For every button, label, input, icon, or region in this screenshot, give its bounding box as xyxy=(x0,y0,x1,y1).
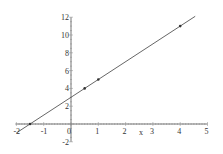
x-tick-label: 1 xyxy=(95,127,99,136)
axis-ticks xyxy=(16,17,207,142)
x-tick-label: -1 xyxy=(41,127,48,136)
y-tick-label: 4 xyxy=(65,84,69,93)
x-tick-label: 4 xyxy=(177,127,181,136)
x-tick-label: 2 xyxy=(123,127,127,136)
axes xyxy=(15,17,207,142)
y-tick-label: 8 xyxy=(65,49,69,58)
data-point xyxy=(83,87,86,90)
data-point xyxy=(179,25,182,28)
x-tick-label: 5 xyxy=(205,127,209,136)
x-tick-label: -2 xyxy=(13,127,20,136)
data-point xyxy=(97,78,100,81)
y-tick-label: 2 xyxy=(65,102,69,111)
x-tick-label: 3 xyxy=(150,127,154,136)
line-chart: -2-1012345-224681012 x xyxy=(0,0,223,154)
tick-labels: -2-1012345-224681012 xyxy=(13,13,208,147)
y-tick-label: -2 xyxy=(62,138,69,147)
x-tick-label: 0 xyxy=(67,127,71,136)
data-point xyxy=(29,123,32,126)
x-axis-label: x xyxy=(139,128,143,137)
y-tick-label: 6 xyxy=(65,67,69,76)
y-tick-label: 10 xyxy=(61,31,69,40)
y-tick-label: 12 xyxy=(61,13,69,22)
data-line xyxy=(16,16,195,133)
